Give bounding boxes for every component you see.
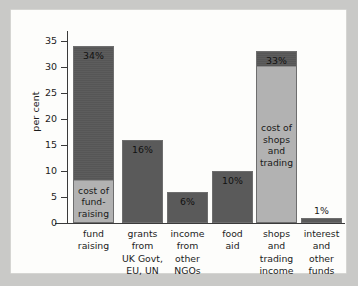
y-tick	[61, 67, 68, 68]
x-axis-category-label: interestandotherfunds	[295, 228, 348, 278]
bar[interactable]: 1%	[301, 218, 342, 223]
bar-cost-segment-label: cost offund-raising	[74, 185, 113, 220]
bar[interactable]: cost ofshopsandtrading33%	[256, 51, 297, 223]
y-tick	[61, 145, 68, 146]
y-tick	[61, 41, 68, 42]
bar-cost-segment: cost offund-raising	[74, 180, 113, 222]
y-tick-label: 0	[31, 218, 57, 228]
y-tick	[61, 171, 68, 172]
y-tick-label: 20	[31, 114, 57, 124]
y-tick	[61, 93, 68, 94]
bar-value-label: 1%	[301, 206, 342, 215]
y-tick-label: 30	[31, 62, 57, 72]
y-tick	[61, 197, 68, 198]
y-axis-line	[67, 31, 68, 224]
bar[interactable]: 16%	[122, 140, 163, 223]
bar-cost-segment: cost ofshopsandtrading	[257, 66, 296, 222]
y-tick	[61, 119, 68, 120]
bar-value-label: 16%	[122, 145, 163, 154]
bar-chart: per cent 05101520253035 cost offund-rais…	[11, 10, 346, 273]
bar-value-label: 6%	[167, 197, 208, 206]
x-axis-line	[55, 223, 345, 224]
bar-value-label: 34%	[73, 51, 114, 60]
bar-cost-segment-label: cost ofshopsandtrading	[257, 122, 296, 168]
figure-card: per cent 05101520253035 cost offund-rais…	[11, 10, 346, 273]
y-tick	[61, 223, 68, 224]
y-tick-label: 5	[31, 192, 57, 202]
y-tick-label: 10	[31, 166, 57, 176]
y-tick-label: 15	[31, 140, 57, 150]
bar-body: cost offund-raising	[73, 46, 114, 223]
y-tick-label: 35	[31, 36, 57, 46]
bar[interactable]: 6%	[167, 192, 208, 223]
bar-body	[301, 218, 342, 223]
bar[interactable]: cost offund-raising34%	[73, 46, 114, 223]
figure-page: per cent 05101520253035 cost offund-rais…	[0, 0, 358, 286]
x-axis-category-label: fundraising	[67, 228, 120, 253]
bar[interactable]: 10%	[212, 171, 253, 223]
bar-value-label: 33%	[256, 56, 297, 65]
bar-body: cost ofshopsandtrading	[256, 51, 297, 223]
y-tick-label: 25	[31, 88, 57, 98]
bar-value-label: 10%	[212, 176, 253, 185]
